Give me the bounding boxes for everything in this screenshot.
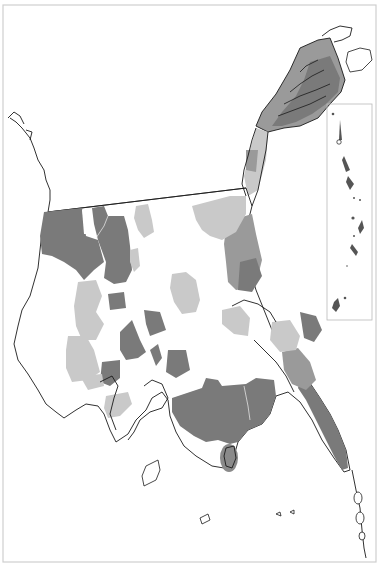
region-southern-tip — [172, 378, 276, 444]
map-container — [0, 0, 383, 570]
region-central-light — [170, 272, 200, 314]
region-central-south-1 — [144, 310, 166, 336]
region-central-west-small — [108, 292, 126, 310]
region-central-south-3 — [150, 344, 162, 366]
northeast-island — [346, 48, 372, 72]
inset-frame — [327, 104, 372, 320]
region-north-east-corridor — [246, 150, 258, 172]
mid-regions — [224, 214, 316, 390]
island-small-3 — [290, 510, 294, 514]
island-se-2 — [356, 512, 364, 524]
island-south-sea — [142, 460, 160, 486]
coastline-gulf-east — [128, 380, 168, 440]
region-east-island-cluster — [300, 312, 322, 342]
region-east-light — [222, 306, 250, 336]
region-southern-island — [220, 444, 238, 472]
region-central-south-4 — [166, 350, 190, 378]
region-central-south-2 — [120, 320, 146, 360]
region-east-coast-light — [270, 320, 300, 352]
choropleth-map — [0, 0, 383, 570]
region-east-coast-strip — [298, 380, 348, 470]
island-small-1 — [200, 514, 210, 524]
region-west-light-1 — [74, 280, 104, 340]
inset-islands — [332, 113, 364, 312]
island-small-2 — [276, 512, 281, 516]
northeast-peninsula — [256, 26, 372, 132]
region-southwest-light — [104, 392, 132, 418]
east-corridor — [242, 128, 268, 206]
region-north-central-light — [134, 204, 154, 238]
island-se-3 — [359, 532, 365, 540]
region-east-coast-mid — [282, 348, 316, 390]
island-se-1 — [354, 492, 362, 504]
coastline-west-upper — [10, 118, 50, 212]
